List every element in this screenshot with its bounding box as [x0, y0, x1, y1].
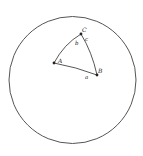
vertex-c-point [80, 33, 83, 36]
vertex-a-label: A [57, 57, 63, 64]
vertex-b-label: B [97, 67, 103, 74]
vertex-a-point [53, 62, 56, 65]
sphere-outline [9, 17, 136, 144]
side-c-label: c [85, 36, 88, 42]
vertex-c-label: C [82, 26, 87, 33]
side-a-arc [54, 63, 97, 75]
spherical-triangle-diagram: A B C a b c [0, 0, 143, 156]
side-b-label: b [75, 40, 79, 46]
vertex-b-point [96, 74, 99, 77]
side-c-arc [81, 34, 97, 75]
side-a-label: a [85, 74, 88, 80]
